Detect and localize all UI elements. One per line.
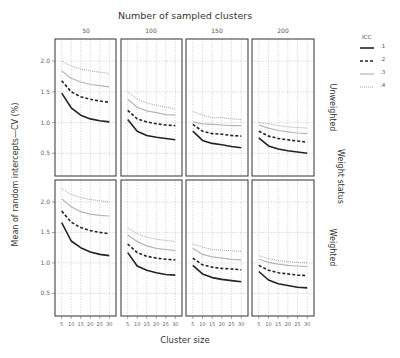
series-line-icc-4 xyxy=(128,92,176,109)
faceted-line-chart xyxy=(0,0,400,358)
y-tick-label: 2.0 xyxy=(30,57,50,64)
panel-border xyxy=(55,39,116,176)
y-tick-label: 2.0 xyxy=(30,198,50,205)
panel-border xyxy=(121,180,182,316)
y-tick-label: 1.0 xyxy=(30,119,50,126)
panel-weighted-100 xyxy=(121,180,182,316)
series-line-icc-2 xyxy=(259,265,307,275)
y-tick-label: 1.5 xyxy=(30,88,50,95)
series-line-icc-3 xyxy=(128,235,176,251)
panel-border xyxy=(121,39,182,176)
panel-weighted-200 xyxy=(252,180,314,316)
x-tick-label: 30 xyxy=(301,321,313,327)
series-line-icc-4 xyxy=(62,61,110,73)
series-line-icc-4 xyxy=(193,112,241,120)
x-tick-label: 30 xyxy=(103,321,115,327)
panel-unweighted-200 xyxy=(252,39,314,176)
series-line-icc-1 xyxy=(128,253,176,276)
series-line-icc-3 xyxy=(62,71,110,87)
y-tick-label: 1.5 xyxy=(30,228,50,235)
series-line-icc-3 xyxy=(193,248,241,260)
panel-border xyxy=(252,39,314,176)
panel-border xyxy=(252,180,314,316)
x-tick-label: 30 xyxy=(169,321,181,327)
y-tick-label: 0.5 xyxy=(30,149,50,156)
panel-weighted-150 xyxy=(186,180,248,316)
panel-border xyxy=(186,39,248,176)
series-line-icc-4 xyxy=(193,244,241,251)
panel-unweighted-150 xyxy=(186,39,248,176)
x-tick-label: 30 xyxy=(235,321,247,327)
series-line-icc-3 xyxy=(62,199,110,216)
y-tick-label: 0.5 xyxy=(30,289,50,296)
panel-weighted-50 xyxy=(55,180,116,316)
panel-border xyxy=(186,180,248,316)
y-tick-label: 1.0 xyxy=(30,259,50,266)
series-line-icc-1 xyxy=(62,223,110,256)
series-line-icc-4 xyxy=(62,189,110,203)
series-line-icc-1 xyxy=(259,138,307,153)
series-line-icc-2 xyxy=(128,110,176,125)
panel-unweighted-100 xyxy=(121,39,182,176)
series-line-icc-2 xyxy=(128,244,176,260)
panel-unweighted-50 xyxy=(55,39,116,176)
series-line-icc-2 xyxy=(62,211,110,234)
